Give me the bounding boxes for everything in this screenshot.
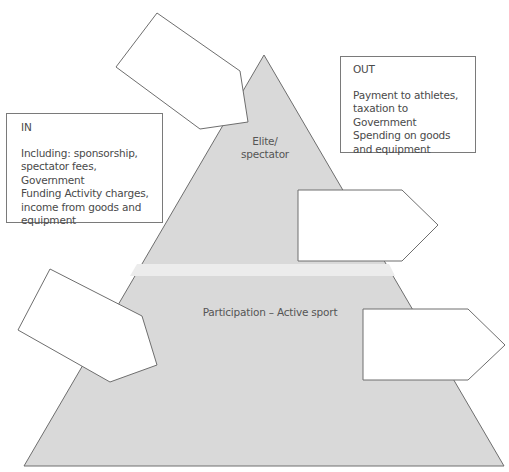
top-left-arrow-box (116, 13, 248, 129)
tier-divider (130, 264, 395, 276)
in-box: IN Including: sponsorship, spectator fee… (6, 113, 163, 223)
out-box-body: Payment to athletes, taxation to Governm… (353, 89, 469, 157)
middle-right-arrow-box (298, 190, 438, 261)
lower-right-arrow-box (363, 309, 505, 380)
in-box-body: Including: sponsorship, spectator fees, … (21, 147, 154, 228)
out-box-title: OUT (353, 63, 469, 77)
elite-spectator-label: Elite/ spectator (225, 135, 305, 161)
in-box-title: IN (21, 121, 154, 135)
participation-active-sport-label: Participation – Active sport (190, 306, 350, 319)
out-box: OUT Payment to athletes, taxation to Gov… (340, 56, 476, 153)
